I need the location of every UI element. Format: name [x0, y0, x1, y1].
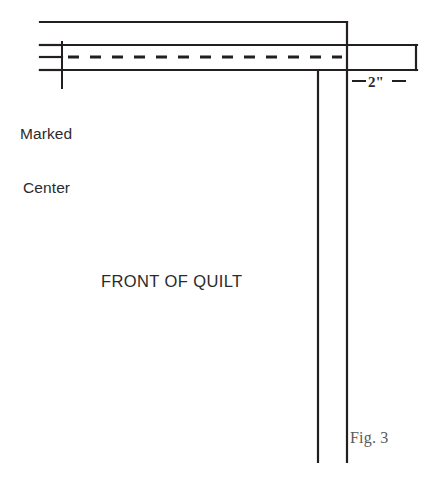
figure-container: Marked Center FRONT OF QUILT 2" Fig. 3	[0, 0, 430, 482]
figure-caption: Fig. 3	[350, 429, 389, 448]
quilt-binding-diagram	[0, 0, 430, 482]
front-of-quilt-label: FRONT OF QUILT	[101, 272, 243, 291]
dimension-label-2-inch: 2"	[368, 74, 384, 92]
marked-center-label-line-2: Center	[20, 179, 72, 197]
marked-center-label: Marked Center	[20, 88, 72, 234]
marked-center-label-line-1: Marked	[20, 125, 72, 143]
